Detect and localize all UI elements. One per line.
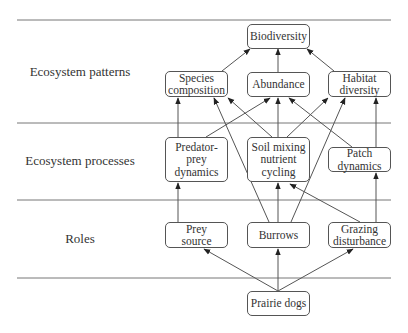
edge-soil_mixing-to-habitat_diversity [287,98,328,137]
node-biodiversity: Biodiversity [247,24,310,49]
node-prairie-dogs: Prairie dogs [247,291,310,316]
edge-prairie_dogs-to-grazing [278,249,353,291]
edge-soil_mixing-to-species_composition [228,98,272,137]
edge-grazing-to-soil_mixing [290,184,360,222]
node-predator-prey-dynamics: Predator- prey dynamics [165,137,228,182]
node-patch-dynamics: Patch dynamics [328,147,391,172]
node-abundance: Abundance [247,72,310,97]
edge-predator_prey-to-abundance [206,98,270,137]
node-soil-mixing-nutrient-cycling: Soil mixing nutrient cycling [247,137,310,182]
edge-species_composition-to-biodiversity [222,49,250,71]
node-prey-source: Prey source [165,222,228,248]
edge-prairie_dogs-to-prey_source [204,249,278,291]
edge-habitat_diversity-to-biodiversity [307,49,334,71]
row-label-patterns: Ecosystem patterns [30,64,131,80]
row-label-roles: Roles [65,231,95,247]
node-burrows: Burrows [247,222,310,248]
row-label-processes: Ecosystem processes [25,153,134,169]
node-habitat-diversity: Habitat diversity [328,71,391,97]
node-species-composition: Species composition [165,71,228,97]
node-grazing-disturbance: Grazing disturbance [328,222,391,248]
